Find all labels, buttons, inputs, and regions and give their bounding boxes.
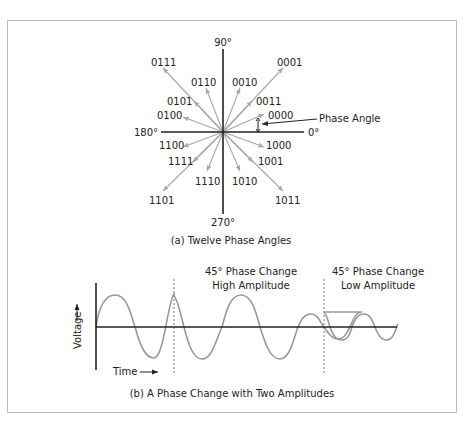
code-1010: 1010	[232, 176, 257, 187]
annotation-high-line2: High Amplitude	[212, 280, 289, 291]
code-0111: 0111	[151, 57, 176, 68]
vector-1100	[183, 132, 223, 147]
annotation-high-line1: 45° Phase Change	[205, 266, 297, 277]
code-1100: 1100	[159, 140, 184, 151]
code-1001: 1001	[258, 156, 283, 167]
code-0101: 0101	[167, 96, 192, 107]
code-0000: 0000	[268, 110, 293, 121]
vector-1001	[223, 132, 253, 162]
label-0: 0°	[308, 127, 319, 138]
code-0100: 0100	[157, 110, 182, 121]
annotation-low-line1: 45° Phase Change	[332, 266, 424, 277]
label-180: 180°	[134, 127, 158, 138]
code-0010: 0010	[232, 77, 257, 88]
code-1110: 1110	[195, 176, 220, 187]
phase-angle-label: Phase Angle	[319, 113, 381, 124]
code-0011: 0011	[256, 96, 281, 107]
waveform-diagram: Voltage Time 45° Phase Change High Ampli…	[72, 266, 424, 399]
code-1000: 1000	[266, 140, 291, 151]
caption-a: (a) Twelve Phase Angles	[171, 235, 292, 246]
figure-canvas: 90° 270° 180° 0° Phase Angle 0000 0011 0…	[0, 0, 476, 430]
vector-0100	[183, 117, 223, 132]
vector-0110	[206, 88, 223, 132]
caption-b: (b) A Phase Change with Two Amplitudes	[130, 388, 335, 399]
vector-0101	[194, 101, 223, 132]
code-1111: 1111	[168, 156, 193, 167]
label-90: 90°	[214, 37, 232, 48]
time-label: Time	[112, 366, 137, 377]
annotation-low-line2: Low Amplitude	[341, 280, 415, 291]
code-1011: 1011	[275, 195, 300, 206]
vector-1110	[207, 132, 223, 171]
label-270: 270°	[211, 217, 235, 228]
voltage-waveform-low	[324, 312, 398, 340]
code-0001: 0001	[277, 57, 302, 68]
code-0110: 0110	[191, 77, 216, 88]
phase-angle-diagram: 90° 270° 180° 0° Phase Angle 0000 0011 0…	[134, 37, 381, 246]
code-1101: 1101	[149, 195, 174, 206]
